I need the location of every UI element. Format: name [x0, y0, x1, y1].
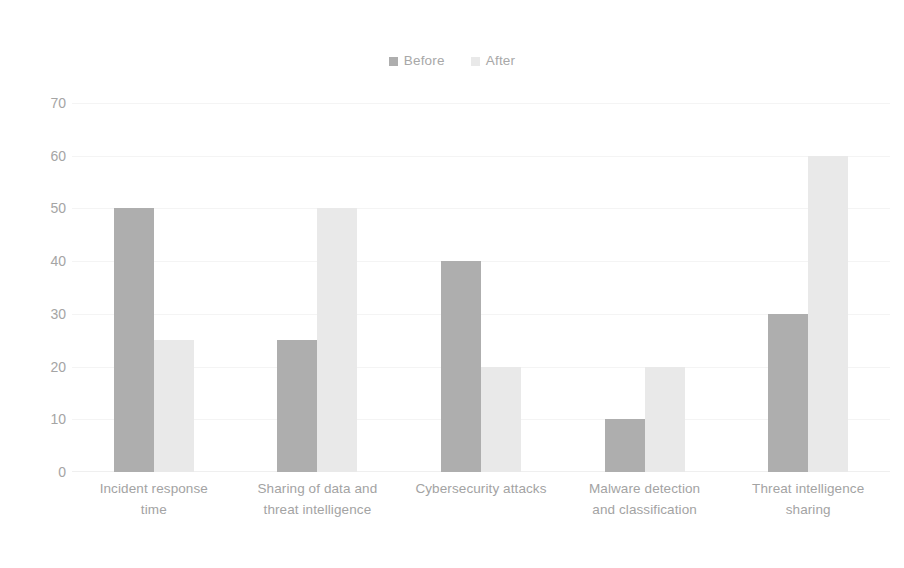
legend-swatch-before-icon	[389, 57, 398, 66]
bar-group-incident-response-time	[114, 103, 194, 472]
y-axis-tick-70: 70	[50, 96, 66, 110]
bar-after-threat-intelligence-sharing[interactable]	[808, 156, 848, 472]
legend-swatch-after-icon	[471, 57, 480, 66]
x-axis-label-line: Incident response	[72, 478, 236, 499]
x-axis-label-line: Sharing of data and	[236, 478, 400, 499]
chart-legend: Before After	[0, 50, 904, 72]
x-axis-label-line: Cybersecurity attacks	[399, 478, 563, 499]
bar-chart: Before After 706050403020100 Incident re…	[0, 0, 904, 568]
bar-after-incident-response-time[interactable]	[154, 340, 194, 472]
y-axis: 706050403020100	[30, 103, 66, 472]
y-axis-tick-60: 60	[50, 149, 66, 163]
bar-before-incident-response-time[interactable]	[114, 208, 154, 472]
y-axis-tick-30: 30	[50, 307, 66, 321]
y-axis-tick-20: 20	[50, 360, 66, 374]
x-axis-label-line: sharing	[726, 499, 890, 520]
bar-before-threat-intelligence-sharing[interactable]	[768, 314, 808, 472]
bars-layer	[72, 103, 890, 472]
x-axis-label-malware-detection-and-classification: Malware detectionand classification	[563, 478, 727, 520]
bar-group-sharing-of-data-and-threat-intelligence	[277, 103, 357, 472]
x-axis-label-line: and classification	[563, 499, 727, 520]
x-axis-labels: Incident responsetimeSharing of data and…	[72, 478, 890, 538]
x-axis-label-incident-response-time: Incident responsetime	[72, 478, 236, 520]
x-axis-label-line: Malware detection	[563, 478, 727, 499]
bar-before-malware-detection-and-classification[interactable]	[605, 419, 645, 472]
x-axis-label-line: time	[72, 499, 236, 520]
x-axis-label-sharing-of-data-and-threat-intelligence: Sharing of data andthreat intelligence	[236, 478, 400, 520]
legend-label-after: After	[486, 54, 516, 68]
bar-before-sharing-of-data-and-threat-intelligence[interactable]	[277, 340, 317, 472]
bar-group-cybersecurity-attacks	[441, 103, 521, 472]
y-axis-tick-0: 0	[58, 465, 66, 479]
y-axis-tick-50: 50	[50, 201, 66, 215]
legend-label-before: Before	[404, 54, 445, 68]
bar-after-cybersecurity-attacks[interactable]	[481, 367, 521, 472]
x-axis-label-line: threat intelligence	[236, 499, 400, 520]
x-axis-label-line: Threat intelligence	[726, 478, 890, 499]
bar-after-sharing-of-data-and-threat-intelligence[interactable]	[317, 208, 357, 472]
bar-after-malware-detection-and-classification[interactable]	[645, 367, 685, 472]
bar-group-threat-intelligence-sharing	[768, 103, 848, 472]
x-axis-label-cybersecurity-attacks: Cybersecurity attacks	[399, 478, 563, 499]
legend-item-after[interactable]: After	[471, 54, 516, 68]
y-axis-tick-40: 40	[50, 254, 66, 268]
y-axis-tick-10: 10	[50, 412, 66, 426]
bar-group-malware-detection-and-classification	[605, 103, 685, 472]
legend-item-before[interactable]: Before	[389, 54, 445, 68]
bar-before-cybersecurity-attacks[interactable]	[441, 261, 481, 472]
x-axis-label-threat-intelligence-sharing: Threat intelligencesharing	[726, 478, 890, 520]
